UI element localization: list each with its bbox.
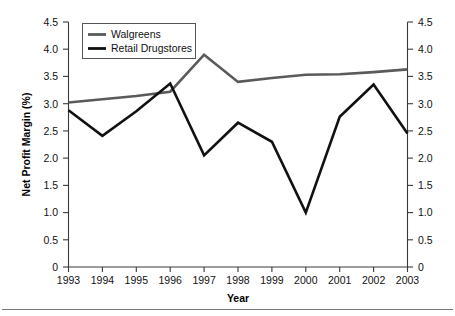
x-tick-label: 2000 <box>294 274 318 286</box>
series-line-retail-drugstores <box>69 84 408 213</box>
x-tick-label: 1997 <box>192 274 216 286</box>
line-chart: 4.5 4.0 3.5 3.0 2.5 2.0 1.5 1.0 0.5 0 4.… <box>0 0 455 316</box>
left-tick-label: 4.0 <box>43 43 58 55</box>
left-tick-label: 3.5 <box>43 70 58 82</box>
left-tick-label: 1.5 <box>43 179 58 191</box>
right-tick-label: 1.5 <box>418 179 433 191</box>
right-tick-label: 4.0 <box>418 43 433 55</box>
right-tick-label: 4.5 <box>418 16 433 28</box>
x-tick-label: 1996 <box>159 274 183 286</box>
x-tick-label: 1994 <box>91 274 115 286</box>
x-tick-label: 1993 <box>57 274 81 286</box>
y-axis-title: Net Profit Margin (%) <box>20 93 32 197</box>
left-tick-label: 1.0 <box>43 206 58 218</box>
left-tick-label: 4.5 <box>43 16 58 28</box>
left-tick-label: 0.5 <box>43 234 58 246</box>
chart-legend: Walgreens Retail Drugstores <box>83 24 196 59</box>
legend-label-retail-drugstores: Retail Drugstores <box>111 42 192 54</box>
right-tick-label: 1.0 <box>418 206 433 218</box>
chart-figure: 4.5 4.0 3.5 3.0 2.5 2.0 1.5 1.0 0.5 0 4.… <box>0 0 455 316</box>
right-axis-ticks: 4.5 4.0 3.5 3.0 2.5 2.0 1.5 1.0 0.5 0 <box>408 16 433 273</box>
left-tick-label: 2.0 <box>43 152 58 164</box>
right-tick-label: 2.0 <box>418 152 433 164</box>
x-axis-ticks: 1993 1994 1995 1996 1997 1998 1999 2000 … <box>57 267 420 286</box>
left-axis-ticks: 4.5 4.0 3.5 3.0 2.5 2.0 1.5 1.0 0.5 0 <box>43 16 68 273</box>
x-tick-label: 1998 <box>226 274 250 286</box>
left-tick-label: 0 <box>52 261 58 273</box>
x-tick-label: 2001 <box>328 274 352 286</box>
legend-label-walgreens: Walgreens <box>111 28 161 40</box>
x-tick-label: 2002 <box>362 274 386 286</box>
right-tick-label: 3.0 <box>418 98 433 110</box>
left-tick-label: 2.5 <box>43 125 58 137</box>
right-tick-label: 2.5 <box>418 125 433 137</box>
x-tick-label: 1995 <box>125 274 149 286</box>
left-tick-label: 3.0 <box>43 98 58 110</box>
series-line-walgreens <box>69 55 408 103</box>
x-axis-title: Year <box>227 292 249 304</box>
right-tick-label: 0 <box>418 261 424 273</box>
x-tick-label: 1999 <box>260 274 284 286</box>
right-tick-label: 3.5 <box>418 70 433 82</box>
x-tick-label: 2003 <box>396 274 420 286</box>
right-tick-label: 0.5 <box>418 234 433 246</box>
